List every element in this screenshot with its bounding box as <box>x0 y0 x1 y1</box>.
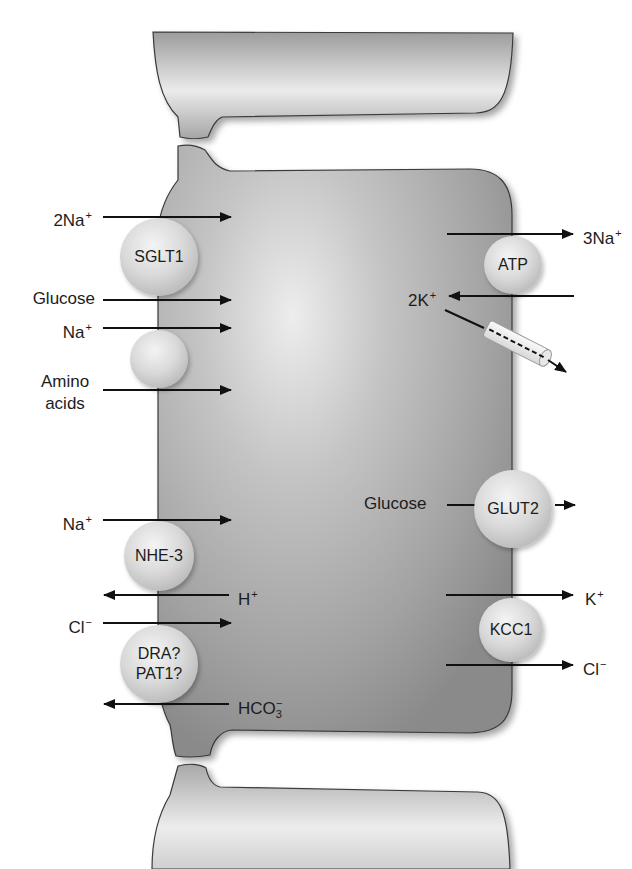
lower-neighbor-cell <box>152 764 510 869</box>
label-cl-apical: Cl− <box>69 613 93 637</box>
label-h: H+ <box>238 585 258 609</box>
atp-label: ATP <box>498 255 528 275</box>
label-2na: 2Na+ <box>53 206 92 230</box>
label-glucose-basolateral: Glucose <box>364 495 426 513</box>
glut2-label: GLUT2 <box>487 499 539 519</box>
cell-diagram <box>0 0 632 869</box>
amino-acid-transporter <box>130 330 188 388</box>
label-amino-acids: Amino acids <box>34 371 96 415</box>
arrow-k-channel-out <box>548 360 566 372</box>
pat1-label: PAT1? <box>136 664 183 684</box>
na-k-atpase: ATP <box>484 236 542 294</box>
kcc1-transporter: KCC1 <box>479 598 543 662</box>
label-k: K+ <box>585 585 604 609</box>
label-3na: 3Na+ <box>583 224 622 248</box>
upper-neighbor-cell <box>153 32 513 139</box>
kcc1-label: KCC1 <box>490 620 533 640</box>
nhe3-label: NHE-3 <box>135 546 183 566</box>
label-hco3: HCO3− <box>238 694 282 723</box>
label-na-aa: Na+ <box>63 318 92 342</box>
sglt1-label: SGLT1 <box>134 247 184 267</box>
label-na-nhe: Na+ <box>63 510 92 534</box>
nhe3-transporter: NHE-3 <box>124 521 194 591</box>
dra-label: DRA? <box>138 644 181 664</box>
label-cl-basolateral: Cl− <box>583 655 607 679</box>
label-2k: 2K+ <box>408 286 436 310</box>
sglt1-transporter: SGLT1 <box>120 218 198 296</box>
dra-pat1-transporter: DRA? PAT1? <box>120 625 198 703</box>
label-glucose-apical: Glucose <box>33 290 95 308</box>
glut2-transporter: GLUT2 <box>474 470 552 548</box>
